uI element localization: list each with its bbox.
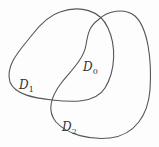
label-d0: D0 bbox=[83, 60, 98, 76]
label-d2: D2 bbox=[62, 120, 77, 136]
curves bbox=[0, 0, 159, 147]
label-d1: D1 bbox=[19, 78, 34, 94]
region-diagram: D1 D0 D2 bbox=[0, 0, 159, 147]
